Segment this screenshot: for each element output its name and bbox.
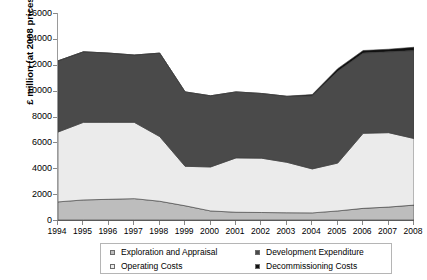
square-swatch-icon <box>255 250 260 255</box>
y-axis-tick-label: 16000 <box>10 9 52 18</box>
x-axis-tick-mark <box>184 221 185 225</box>
y-axis-tick-label: 4000 <box>10 164 52 173</box>
x-axis-tick-mark <box>133 221 134 225</box>
y-axis-tick-label: 0 <box>10 216 52 225</box>
legend-item-label: Decommissioning Costs <box>266 261 357 271</box>
y-axis-tick-label: 6000 <box>10 138 52 147</box>
x-axis-tick-label: 2008 <box>393 226 427 236</box>
y-axis-tick-label: 12000 <box>10 60 52 69</box>
plot-area <box>57 13 414 221</box>
x-axis-tick-mark <box>235 221 236 225</box>
x-axis-tick-mark <box>159 221 160 225</box>
x-axis-tick-mark <box>413 221 414 225</box>
y-axis-tick-labels: 0200040006000800010000120001400016000 <box>8 0 52 232</box>
x-axis-tick-mark <box>260 221 261 225</box>
legend-item: Operating Costs <box>101 261 246 271</box>
legend-item-label: Operating Costs <box>121 261 182 271</box>
legend-item: Decommissioning Costs <box>246 261 391 271</box>
x-axis-tick-mark <box>57 221 58 225</box>
x-axis-tick-mark <box>210 221 211 225</box>
x-axis-tick-mark <box>388 221 389 225</box>
square-swatch-icon <box>255 264 260 269</box>
legend-item: Development Expenditure <box>246 247 391 257</box>
area-series-group <box>58 13 414 220</box>
y-axis-tick-label: 2000 <box>10 190 52 199</box>
square-swatch-icon <box>110 264 115 269</box>
x-axis-tick-mark <box>362 221 363 225</box>
x-axis-tick-labels: 1994199519961997199819992000200120022003… <box>57 221 413 237</box>
square-swatch-icon <box>110 250 115 255</box>
legend-item-label: Exploration and Appraisal <box>121 247 217 257</box>
chart-legend: Exploration and Appraisal Development Ex… <box>100 243 392 274</box>
x-axis-tick-mark <box>108 221 109 225</box>
y-axis-tick-label: 14000 <box>10 34 52 43</box>
x-axis-tick-mark <box>286 221 287 225</box>
x-axis-tick-mark <box>311 221 312 225</box>
y-axis-tick-label: 8000 <box>10 112 52 121</box>
legend-item: Exploration and Appraisal <box>101 247 246 257</box>
legend-item-label: Development Expenditure <box>266 247 364 257</box>
x-axis-tick-mark <box>337 221 338 225</box>
y-axis-tick-label: 10000 <box>10 86 52 95</box>
x-axis-tick-mark <box>82 221 83 225</box>
